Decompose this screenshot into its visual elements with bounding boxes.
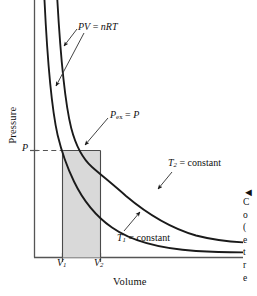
x-axis-label: Volume (113, 277, 147, 288)
x-tick-v2-subscript: 2 (100, 261, 103, 268)
x-tick-v1-subscript: 1 (63, 261, 66, 268)
y-tick-label-p: P (22, 143, 28, 153)
x-tick-label-v2: V2 (94, 258, 104, 269)
caption-clipped-text: C o ( e t r e (243, 196, 257, 296)
ideal-gas-law-rhs: nRT (101, 21, 118, 32)
ideal-gas-law-lhs: PV (78, 21, 90, 32)
lower-isotherm-equals: = (126, 232, 137, 243)
annotation-lower-isotherm: T1 = constant (117, 233, 170, 244)
caption-line: r (243, 259, 257, 272)
leader-pex-to-rectangle (85, 118, 108, 145)
leader-pv-to-t2-curve (64, 29, 77, 46)
caption-line: o (243, 209, 257, 222)
upper-isotherm-rhs: constant (188, 157, 221, 168)
caption-line: ( (243, 221, 257, 234)
upper-isotherm-equals: = (177, 157, 188, 168)
caption-line: e (243, 272, 257, 285)
y-axis-label: Pressure (8, 95, 19, 155)
annotation-ideal-gas-law: PV = nRT (78, 22, 118, 32)
annotation-upper-isotherm: T2 = constant (168, 158, 221, 169)
leader-t1-to-curve (124, 212, 140, 231)
annotation-external-pressure: Pex = P (110, 110, 139, 121)
external-pressure-equals: = (123, 109, 134, 120)
external-pressure-rhs: P (133, 109, 139, 120)
pv-isotherm-figure: Pressure Volume P V1 V2 PV = nRT Pex = P… (0, 0, 257, 296)
ideal-gas-law-equals: = (90, 21, 101, 32)
lower-isotherm-rhs: constant (137, 232, 170, 243)
caption-line: C (243, 196, 257, 209)
x-tick-label-v1: V1 (57, 258, 67, 269)
caption-line: t (243, 246, 257, 259)
plot-canvas (0, 0, 257, 296)
caption-line: e (243, 234, 257, 247)
leader-t2-to-curve (158, 172, 172, 189)
